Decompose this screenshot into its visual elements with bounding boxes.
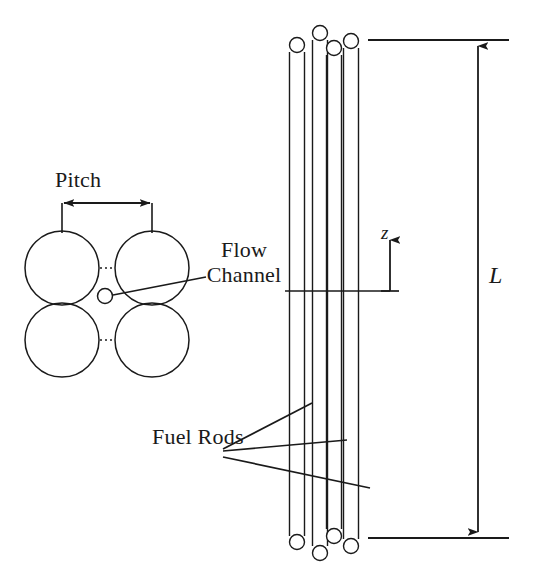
fuel-rod-circle-bottom-left (25, 303, 99, 377)
fuel-rods-leader-lines (223, 403, 370, 488)
fuel-rod-3 (327, 41, 342, 544)
flow-channel-label-line2: Channel (207, 262, 282, 287)
pitch-dimension (62, 203, 152, 233)
flow-channel-label-line1: Flow (221, 237, 267, 262)
cross-section-group (25, 203, 206, 377)
fuel-rods-label: Fuel Rods (152, 425, 244, 450)
flow-channel-label: FlowChannel (192, 238, 296, 287)
fuel-rod-circle-bottom-right (115, 303, 189, 377)
axial-view-group (223, 26, 399, 561)
flow-channel-marker-circle (98, 289, 113, 304)
length-label: L (489, 262, 503, 289)
fuel-rod-4 (344, 34, 359, 554)
fuel-rod-2 (313, 26, 328, 561)
pitch-label: Pitch (55, 168, 101, 193)
fuel-rod-circle-top-left (25, 231, 99, 305)
z-axis-label: z (381, 222, 389, 243)
z-axis-arrow (381, 240, 399, 291)
fuel-rod-circle-top-right (115, 231, 189, 305)
